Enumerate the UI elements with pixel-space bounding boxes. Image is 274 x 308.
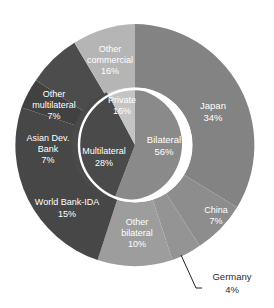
- germany-callout-value: 4%: [225, 284, 239, 295]
- label-other-commercial-line1: Other: [99, 44, 122, 54]
- label-private-value: 16%: [113, 106, 131, 116]
- label-bilateral-name: Bilateral: [147, 134, 181, 145]
- label-other-multilateral-line1: Other: [43, 89, 66, 99]
- label-other-multilateral-value: 7%: [47, 111, 60, 121]
- label-world-bank-ida-name: World Bank-IDA: [35, 197, 99, 207]
- label-private-name: Private: [108, 95, 136, 105]
- label-china-value: 7%: [209, 216, 222, 226]
- label-world-bank-ida-value: 15%: [58, 209, 76, 219]
- label-china-name: China: [204, 205, 228, 215]
- label-bilateral-value: 56%: [154, 146, 174, 157]
- label-other-commercial-line2: commercial: [87, 55, 133, 65]
- label-multilateral-name: Multilateral: [82, 146, 126, 156]
- label-multilateral-value: 28%: [95, 158, 113, 168]
- label-asian-dev-bank-line2: Bank: [38, 144, 59, 154]
- label-japan-name: Japan: [200, 100, 226, 111]
- label-other-bilateral-value: 10%: [128, 239, 146, 249]
- nested-donut-chart: Japan 34% China 7% Other bilateral 10% W…: [0, 0, 274, 308]
- germany-callout-label: Germany: [212, 271, 251, 282]
- germany-callout-leader-line: [181, 255, 202, 288]
- label-japan-value: 34%: [203, 112, 223, 123]
- label-other-commercial-value: 16%: [101, 66, 119, 76]
- label-other-bilateral-line2: bilateral: [121, 228, 153, 238]
- pie-chart-container: Japan 34% China 7% Other bilateral 10% W…: [0, 0, 274, 308]
- label-asian-dev-bank-line1: Asian Dev.: [27, 133, 70, 143]
- label-other-multilateral-line2: multilateral: [32, 100, 76, 110]
- label-other-bilateral-line1: Other: [126, 217, 149, 227]
- label-asian-dev-bank-value: 7%: [41, 155, 54, 165]
